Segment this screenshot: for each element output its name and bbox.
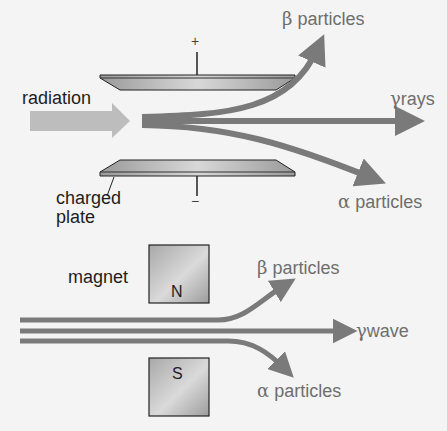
gamma-symbol: γ (356, 320, 367, 341)
charged-plate-label-line2: plate (56, 208, 95, 226)
gamma-rays-label: γrays (390, 90, 435, 108)
magnet-label: magnet (68, 268, 128, 286)
positive-sign: + (191, 34, 199, 48)
negative-sign: − (191, 194, 199, 208)
beta-symbol: β (282, 8, 292, 29)
south-pole-label: S (172, 366, 183, 382)
radiation-arrow (30, 103, 130, 138)
charged-plate-label-line1: charged (56, 189, 121, 207)
gamma-symbol: γ (390, 88, 401, 109)
alpha-particles-label-electric: α particles (338, 193, 422, 211)
alpha-particles-label-magnetic: α particles (257, 382, 341, 400)
negative-plate (100, 160, 295, 196)
beta-symbol: β (257, 257, 267, 278)
alpha-symbol: α (257, 380, 269, 401)
electric-beams (142, 48, 410, 178)
positive-plate (100, 52, 295, 90)
beta-particles-label-magnetic: β particles (257, 259, 339, 277)
radiation-label: radiation (22, 89, 91, 107)
alpha-symbol: α (338, 191, 350, 212)
gamma-wave-label: γwave (356, 322, 409, 340)
beta-particles-label-electric: β particles (282, 10, 364, 28)
north-pole-label: N (171, 284, 183, 300)
